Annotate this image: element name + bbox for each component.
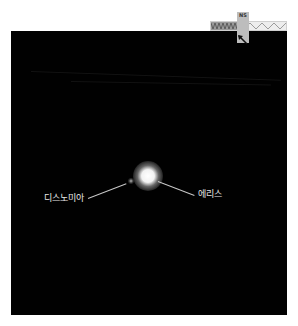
compass-label: NS: [237, 12, 249, 18]
compass-arrow-icon: [237, 31, 249, 43]
dysnomia-body: [128, 178, 134, 184]
dysnomia-label: 디스노미아: [44, 193, 84, 203]
eris-pointer-line: [158, 181, 195, 196]
background-streak: [31, 71, 281, 81]
background-streak: [71, 81, 271, 85]
eris-label: 에리스: [198, 189, 222, 199]
eris-body: [133, 161, 163, 191]
dysnomia-pointer-line: [88, 183, 127, 199]
space-image: 디스노미아 에리스: [11, 31, 287, 315]
compass-label-box: NS: [237, 12, 249, 31]
